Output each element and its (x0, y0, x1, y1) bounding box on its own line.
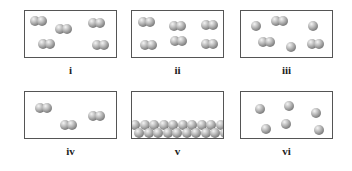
atom-sphere (144, 128, 154, 138)
atom-sphere (210, 128, 220, 138)
atom-sphere (145, 17, 155, 27)
atom-sphere (42, 103, 52, 113)
atom-sphere (251, 21, 261, 31)
atom-sphere (314, 125, 324, 135)
atom-sphere (261, 124, 271, 134)
atom-sphere (286, 42, 296, 52)
atom-sphere (134, 128, 144, 138)
panel-label: v (131, 145, 224, 157)
panel-label: iv (24, 145, 117, 157)
panel-label: iii (240, 64, 333, 76)
atom-sphere (308, 21, 318, 31)
atom-sphere (255, 104, 265, 114)
atom-sphere (177, 36, 187, 46)
atom-sphere (172, 128, 182, 138)
atom-sphere (314, 39, 324, 49)
panel-iii (240, 10, 333, 58)
panel-label: ii (131, 64, 224, 76)
atom-sphere (67, 120, 77, 130)
atom-sphere (284, 101, 294, 111)
panel-vi (240, 91, 333, 139)
panel-i (24, 10, 117, 58)
atom-sphere (265, 37, 275, 47)
atom-sphere (95, 18, 105, 28)
atom-sphere (163, 128, 173, 138)
panel-ii (131, 10, 224, 58)
atom-sphere (153, 128, 163, 138)
atom-sphere (281, 119, 291, 129)
atom-sphere (220, 128, 225, 138)
atom-sphere (37, 16, 47, 26)
atom-sphere (62, 24, 72, 34)
atom-sphere (311, 108, 321, 118)
atom-sphere (208, 20, 218, 30)
atom-sphere (99, 40, 109, 50)
atom-sphere (208, 39, 218, 49)
atom-sphere (201, 128, 211, 138)
atom-sphere (45, 39, 55, 49)
panel-label: i (24, 64, 117, 76)
panel-v (131, 91, 224, 139)
panel-label: vi (240, 145, 333, 157)
panel-iv (24, 91, 117, 139)
atom-sphere (176, 21, 186, 31)
atom-sphere (147, 40, 157, 50)
atom-sphere (278, 16, 288, 26)
atom-sphere (95, 111, 105, 121)
atom-sphere (182, 128, 192, 138)
atom-sphere (191, 128, 201, 138)
